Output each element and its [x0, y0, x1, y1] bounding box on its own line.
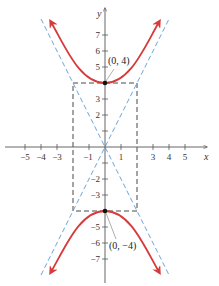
y-tick-label: 6: [96, 46, 101, 56]
y-tick-label: 2: [96, 110, 101, 120]
vertex-bottom-label: (0, −4): [109, 240, 136, 252]
vertex-top-point: [103, 81, 108, 86]
x-tick-label: −3: [52, 152, 62, 162]
vertex-bottom-leader: [106, 213, 116, 239]
y-tick-label: −6: [90, 238, 100, 248]
x-axis-label: x: [203, 151, 209, 162]
y-tick-label: −5: [90, 222, 100, 232]
x-tick-label: −1: [83, 152, 93, 162]
y-tick-label: −2: [90, 174, 100, 184]
y-tick-label: 7: [96, 30, 101, 40]
y-tick-label: −3: [90, 190, 100, 200]
x-tick-label: 1: [119, 152, 124, 162]
x-tick-label: 4: [167, 152, 172, 162]
vertex-top-label: (0, 4): [108, 55, 130, 67]
y-tick-label: 3: [96, 94, 101, 104]
hyperbola-chart: −5 −4 −3 −1 1 3 4 5 x 7 6 5 3 2 −2 −3 −5…: [0, 0, 219, 286]
vertex-bottom-point: [103, 209, 108, 214]
x-tick-label: −5: [20, 152, 30, 162]
vertex-top-leader: [106, 69, 114, 81]
y-tick-label: −7: [90, 254, 100, 264]
x-tick-label: 3: [151, 152, 156, 162]
x-tick-label: 5: [183, 152, 188, 162]
y-axis-label: y: [96, 8, 102, 19]
x-tick-label: −4: [36, 152, 46, 162]
y-tick-label: 5: [96, 62, 101, 72]
